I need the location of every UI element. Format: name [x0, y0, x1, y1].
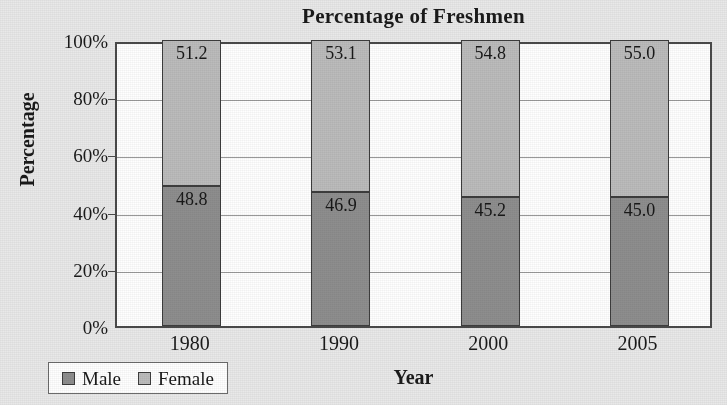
bar-value-label: 51.2	[176, 44, 208, 62]
bar-group[interactable]: 46.953.1	[311, 40, 370, 326]
bar-value-label: 53.1	[325, 44, 357, 62]
bar-chart: Percentage of Freshmen 0%20%40%60%80%100…	[0, 0, 727, 405]
bar-value-label: 55.0	[624, 44, 656, 62]
bar-value-label: 46.9	[325, 196, 357, 214]
bar-segment-male[interactable]: 48.8	[162, 186, 221, 326]
legend-label: Female	[158, 369, 214, 388]
legend-item[interactable]: Male	[62, 369, 121, 388]
plot-area: 48.851.246.953.145.254.845.055.0	[115, 42, 712, 328]
bar-group[interactable]: 45.254.8	[461, 40, 520, 326]
y-axis-tick-label: 20%	[8, 260, 108, 282]
bar-segment-female[interactable]: 55.0	[610, 40, 669, 197]
bar-segment-male[interactable]: 46.9	[311, 192, 370, 326]
x-axis-tick-label: 2000	[428, 332, 548, 355]
legend-item[interactable]: Female	[138, 369, 214, 388]
x-axis-tick-label: 2005	[577, 332, 697, 355]
bar-group[interactable]: 48.851.2	[162, 40, 221, 326]
legend-swatch	[62, 372, 75, 385]
bar-segment-male[interactable]: 45.0	[610, 197, 669, 326]
bar-segment-female[interactable]: 54.8	[461, 40, 520, 197]
bar-segment-female[interactable]: 53.1	[311, 40, 370, 192]
y-axis-tick-mark	[108, 99, 115, 100]
bar-value-label: 45.0	[624, 201, 656, 219]
y-axis-tick-mark	[108, 271, 115, 272]
legend-label: Male	[82, 369, 121, 388]
chart-legend: MaleFemale	[48, 362, 228, 394]
x-axis-tick-label: 1990	[279, 332, 399, 355]
y-axis-tick-mark	[108, 214, 115, 215]
bar-value-label: 54.8	[474, 44, 506, 62]
legend-swatch	[138, 372, 151, 385]
y-axis-title: Percentage	[16, 40, 39, 240]
y-axis-tick-label: 0%	[8, 317, 108, 339]
x-axis-tick-label: 1980	[130, 332, 250, 355]
bar-group[interactable]: 45.055.0	[610, 40, 669, 326]
bar-value-label: 45.2	[474, 201, 506, 219]
y-axis-tick-mark	[108, 156, 115, 157]
bar-value-label: 48.8	[176, 190, 208, 208]
bar-segment-female[interactable]: 51.2	[162, 40, 221, 186]
bar-segment-male[interactable]: 45.2	[461, 197, 520, 326]
